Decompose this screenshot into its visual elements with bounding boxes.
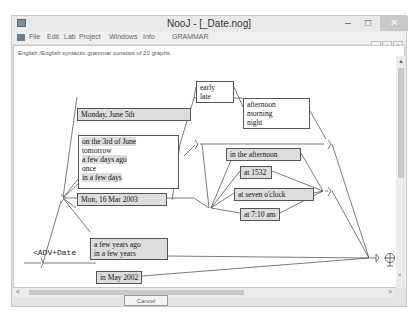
- node-in-the-afternoon[interactable]: in the afternoon: [226, 148, 301, 161]
- vertical-scroll-thumb[interactable]: [398, 68, 404, 178]
- document-icon: [17, 34, 25, 41]
- node-may-2002[interactable]: in May 2002: [96, 271, 142, 284]
- cancel-button[interactable]: Cancel: [124, 295, 168, 306]
- node-years[interactable]: a few years ago in a few years: [90, 238, 168, 260]
- node-time-of-day[interactable]: afternoon morning night: [243, 98, 310, 129]
- vertical-scrollbar[interactable]: ▲ ˅: [396, 56, 406, 288]
- menu-info[interactable]: Info: [143, 33, 155, 40]
- node-monday[interactable]: Monday, June 5th: [77, 108, 191, 121]
- menu-lab[interactable]: Lab: [64, 33, 76, 40]
- scroll-right-icon[interactable]: >: [388, 288, 392, 295]
- maximize-button[interactable]: □: [360, 16, 376, 31]
- scroll-up-icon[interactable]: ▲: [398, 58, 404, 64]
- node-early-late[interactable]: early late: [196, 81, 234, 103]
- menu-edit[interactable]: Edit: [47, 33, 59, 40]
- close-button[interactable]: ✕: [380, 16, 408, 31]
- menu-bar: File Edit Lab Project Windows Info GRAMM…: [12, 32, 406, 45]
- minimize-button[interactable]: –: [340, 16, 356, 31]
- title-bar: NooJ - [_Date.nog] – □ ✕: [12, 16, 406, 32]
- node-at-7-10[interactable]: at 7:10 am: [240, 208, 280, 221]
- scroll-left-icon[interactable]: <: [16, 288, 20, 295]
- menu-windows[interactable]: Windows: [109, 33, 137, 40]
- node-relative-dates[interactable]: on the 3rd of June tomorrow a few days a…: [78, 135, 179, 189]
- menu-file[interactable]: File: [29, 33, 40, 40]
- menu-grammar[interactable]: GRAMMAR: [172, 33, 209, 40]
- node-mon-16-mar[interactable]: Mon, 16 Mar 2003: [77, 193, 167, 206]
- nooj-window: NooJ - [_Date.nog] – □ ✕ File Edit Lab P…: [11, 15, 407, 307]
- output-label: <ADV+Date: [33, 248, 76, 257]
- node-at-1532[interactable]: at 1532: [240, 166, 272, 179]
- final-node-icon: [386, 254, 395, 267]
- scroll-down-icon[interactable]: ˅: [398, 272, 402, 278]
- menu-project[interactable]: Project: [79, 33, 101, 40]
- horizontal-scrollbar[interactable]: < >: [13, 288, 395, 297]
- node-at-seven[interactable]: at seven o'clock: [234, 188, 314, 201]
